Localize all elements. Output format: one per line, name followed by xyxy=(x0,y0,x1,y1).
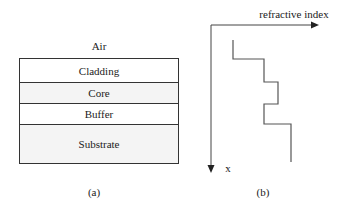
arrow-down-icon xyxy=(208,165,215,173)
caption-b: (b) xyxy=(257,186,270,198)
arrow-right-icon xyxy=(311,22,319,29)
x-axis-label: refractive index xyxy=(259,8,328,20)
refractive-index-profile-plot xyxy=(0,0,337,212)
index-profile-line xyxy=(233,40,291,162)
y-axis-label: x xyxy=(225,162,231,174)
